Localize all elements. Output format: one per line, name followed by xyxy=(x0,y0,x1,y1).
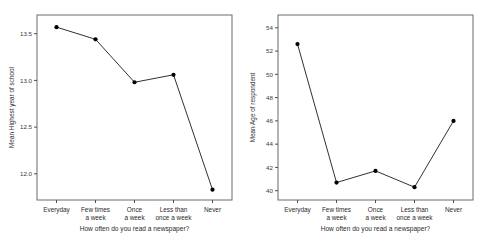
x-axis-category-label: a week xyxy=(365,214,386,221)
line-chart-right: 4042444648505254EverydayFew timesa weekO… xyxy=(241,0,481,250)
x-axis-title: How often do you read a newspaper? xyxy=(80,225,190,233)
line-chart-left: 12.012.513.013.5EverydayFew timesa weekO… xyxy=(0,0,240,250)
data-point-marker xyxy=(334,180,338,184)
data-point-marker xyxy=(210,188,214,192)
y-axis-tick-label: 48 xyxy=(266,94,273,101)
y-axis-tick-label: 13.5 xyxy=(20,30,33,37)
chart-page: 12.012.513.013.5EverydayFew timesa weekO… xyxy=(0,0,481,250)
data-point-marker xyxy=(373,169,377,173)
data-point-marker xyxy=(171,73,175,77)
x-axis-category-label: Never xyxy=(204,206,222,213)
y-axis-tick-label: 42 xyxy=(266,164,273,171)
x-axis-category-label: Everyday xyxy=(284,206,311,214)
y-axis-tick-label: 12.0 xyxy=(20,170,33,177)
y-axis-tick-label: 54 xyxy=(266,24,273,31)
x-axis-category-label: Everyday xyxy=(43,206,70,214)
data-point-marker xyxy=(54,25,58,29)
y-axis-tick-label: 44 xyxy=(266,140,273,147)
x-axis-category-label: Once xyxy=(367,206,383,213)
y-axis-tick-label: 46 xyxy=(266,117,273,124)
plot-frame xyxy=(37,15,232,200)
x-axis-category-label: Few times xyxy=(81,206,110,213)
data-series-line xyxy=(297,44,453,187)
data-point-marker xyxy=(451,119,455,123)
x-axis-category-label: once a week xyxy=(396,214,433,221)
y-axis-tick-label: 50 xyxy=(266,71,273,78)
chart-panel-left: 12.012.513.013.5EverydayFew timesa weekO… xyxy=(0,0,241,250)
y-axis-tick-label: 13.0 xyxy=(20,77,33,84)
y-axis-title: Mean Age of respondent xyxy=(249,72,257,142)
y-axis-tick-label: 40 xyxy=(266,187,273,194)
data-point-marker xyxy=(295,42,299,46)
x-axis-category-label: Never xyxy=(444,206,462,213)
y-axis-tick-label: 52 xyxy=(266,47,273,54)
data-point-marker xyxy=(132,80,136,84)
data-point-marker xyxy=(93,37,97,41)
x-axis-category-label: a week xyxy=(124,214,145,221)
x-axis-category-label: a week xyxy=(85,214,106,221)
x-axis-category-label: Less than xyxy=(400,206,428,213)
y-axis-title: Mean Highest year of school xyxy=(8,67,16,148)
x-axis-title: How often do you read a newspaper? xyxy=(320,225,430,233)
x-axis-category-label: once a week xyxy=(156,214,193,221)
y-axis-tick-label: 12.5 xyxy=(20,123,33,130)
data-point-marker xyxy=(412,185,416,189)
x-axis-category-label: a week xyxy=(326,214,347,221)
data-series-line xyxy=(57,27,213,190)
chart-panel-right: 4042444648505254EverydayFew timesa weekO… xyxy=(241,0,481,250)
x-axis-category-label: Once xyxy=(127,206,143,213)
x-axis-category-label: Few times xyxy=(321,206,350,213)
x-axis-category-label: Less than xyxy=(160,206,188,213)
